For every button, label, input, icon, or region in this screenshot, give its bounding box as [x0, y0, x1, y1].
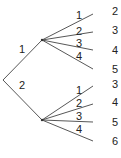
- outcome-label: 2: [112, 6, 118, 17]
- branch-label: 1: [19, 44, 25, 55]
- outcome-label: 3: [112, 79, 118, 90]
- branch-label: 1: [76, 10, 82, 21]
- branch-label: 3: [76, 111, 82, 122]
- branch-label: 4: [76, 124, 82, 135]
- branch-label: 3: [76, 38, 82, 49]
- branch-label: 4: [76, 51, 82, 62]
- outcome-label: 4: [112, 45, 118, 56]
- outcome-label: 4: [112, 97, 118, 108]
- outcome-label: 5: [112, 64, 118, 75]
- branch-label: 1: [76, 85, 82, 96]
- outcome-label: 5: [112, 117, 118, 128]
- branch-label: 2: [19, 80, 25, 91]
- branch-label: 2: [76, 98, 82, 109]
- outcome-label: 6: [112, 136, 118, 147]
- branch-label: 2: [76, 26, 82, 37]
- outcome-label: 3: [112, 25, 118, 36]
